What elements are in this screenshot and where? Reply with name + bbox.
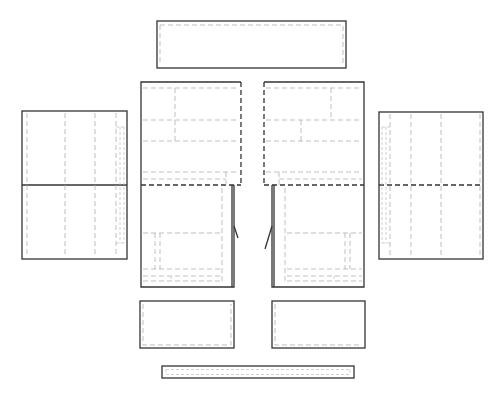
right-door-panel (264, 82, 364, 287)
cabinet-flat-pattern: .o { fill:none; stroke:#333; stroke-widt… (0, 0, 504, 401)
left-drawer-front (140, 301, 234, 348)
top-panel (157, 21, 346, 68)
diagram-canvas: .o { fill:none; stroke:#333; stroke-widt… (0, 0, 504, 401)
left-side-panel (22, 111, 127, 259)
right-drawer-front (272, 301, 365, 348)
right-side-panel (379, 112, 483, 259)
base-strip (162, 366, 354, 378)
left-door-panel (141, 82, 241, 287)
